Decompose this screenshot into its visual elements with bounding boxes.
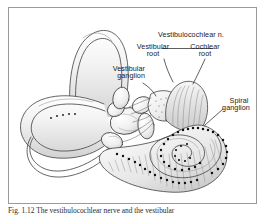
- figure-root: Vestibulocochlear n. Vestibular root Coc…: [0, 0, 266, 217]
- label-cochlear-root-line2: root: [179, 50, 231, 58]
- lateral-semicircular-canal: [20, 96, 113, 159]
- caption-text: Fig. 1.12 The vestibulocochlear nerve an…: [8, 206, 257, 215]
- vestibulocochlear-nerve-trunk: [166, 81, 208, 131]
- figure-frame: Vestibulocochlear n. Vestibular root Coc…: [8, 7, 257, 204]
- label-vestibular-root-line2: root: [127, 50, 179, 58]
- label-vestibulocochlear-nerve: Vestibulocochlear n.: [141, 31, 241, 39]
- figure-caption: Fig. 1.12 The vestibulocochlear nerve an…: [8, 206, 257, 217]
- label-vestibular-ganglion-line2: ganglion: [89, 72, 145, 80]
- label-spiral-ganglion-line2: ganglion: [215, 104, 257, 112]
